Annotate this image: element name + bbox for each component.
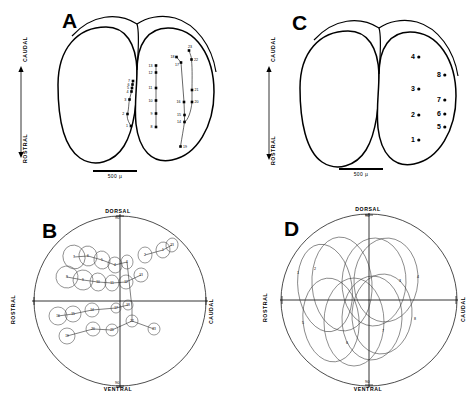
panel-d-receptive-field-5 bbox=[299, 275, 363, 364]
panel-c-site-5 bbox=[443, 125, 446, 128]
panel-a-site-1 bbox=[130, 125, 133, 128]
panel-c-site-8 bbox=[443, 73, 446, 76]
panel-c-site-label-5: 5 bbox=[437, 123, 441, 130]
panel-b-visual-field: 765432123891011121316151417181920212223 bbox=[20, 212, 220, 390]
panel-d-receptive-field-label-7: 7 bbox=[382, 329, 384, 333]
panel-b-receptive-field-label-20: 20 bbox=[91, 327, 95, 331]
panel-d-axis-rostral-label: ROSTRAL bbox=[262, 293, 268, 322]
panel-b-receptive-field-label-6: 6 bbox=[87, 254, 89, 258]
panel-b-receptive-field-label-13: 13 bbox=[139, 273, 143, 277]
panel-a-site-label-1: 1 bbox=[126, 124, 128, 128]
panel-d-visual-field: 12345678 bbox=[270, 210, 468, 390]
panel-b-receptive-field-label-8: 8 bbox=[66, 275, 68, 279]
panel-d: D DORSAL 90 VENTRAL 90 ROSTRAL CAUDAL 12… bbox=[238, 200, 476, 400]
panel-a-site-18 bbox=[175, 56, 178, 59]
panel-c-scalebar: 500 µ bbox=[339, 168, 383, 177]
panel-b-receptive-field-label-11: 11 bbox=[110, 281, 114, 285]
panel-c-site-label-1: 1 bbox=[411, 136, 415, 143]
panel-b-receptive-field-label-7: 7 bbox=[73, 255, 75, 259]
panel-b-receptive-field-label-5: 5 bbox=[101, 258, 103, 262]
panel-b-field-group: 765432123891011121316151417181920212223 bbox=[49, 237, 179, 344]
panel-d-receptive-field-8 bbox=[349, 272, 414, 356]
panel-a-site-label-15: 15 bbox=[177, 113, 181, 117]
panel-a-site-23 bbox=[188, 49, 191, 52]
panel-d-receptive-field-label-6: 6 bbox=[346, 341, 348, 345]
panel-a-site-label-9: 9 bbox=[150, 112, 152, 116]
panel-a-site-7 bbox=[132, 80, 135, 83]
panel-d-receptive-field-label-1: 1 bbox=[297, 271, 299, 275]
panel-d-receptive-field-6 bbox=[324, 278, 384, 366]
panel-b-receptive-field-label-12: 12 bbox=[124, 280, 128, 284]
panel-b-receptive-field-label-19: 19 bbox=[65, 334, 69, 338]
panel-b-receptive-field-label-23: 23 bbox=[170, 243, 174, 247]
panel-a-site-label-3: 3 bbox=[124, 98, 126, 102]
panel-a-site-17 bbox=[180, 61, 183, 64]
panel-a-site-19 bbox=[179, 145, 182, 148]
panel-a-site-label-22: 22 bbox=[194, 58, 198, 62]
panel-a-site-4 bbox=[130, 90, 133, 93]
panel-b-receptive-field-label-15: 15 bbox=[71, 312, 75, 316]
panel-a-site-14 bbox=[183, 121, 186, 124]
panel-a-site-label-7: 7 bbox=[128, 79, 130, 83]
panel-a-scalebar-label: 500 µ bbox=[93, 173, 137, 179]
panel-c-scalebar-line bbox=[339, 168, 383, 170]
panel-a-site-label-10: 10 bbox=[149, 99, 153, 103]
panel-d-receptive-field-3 bbox=[340, 237, 407, 327]
panel-c-site-2 bbox=[417, 113, 420, 116]
panel-a-site-11 bbox=[155, 87, 158, 90]
panel-a-site-label-6: 6 bbox=[128, 83, 130, 87]
panel-a-site-label-13: 13 bbox=[149, 64, 153, 68]
panel-a-site-label-5: 5 bbox=[127, 86, 129, 90]
panel-c-site-label-6: 6 bbox=[437, 110, 441, 117]
panel-b-receptive-field-label-23b: 23 bbox=[152, 327, 156, 331]
panel-c-site-7 bbox=[443, 98, 446, 101]
panel-b-receptive-field-label-16: 16 bbox=[56, 314, 60, 318]
panel-b-receptive-field-label-21: 21 bbox=[110, 328, 114, 332]
panel-a-site-label-4: 4 bbox=[127, 90, 129, 94]
panel-d-receptive-field-label-4: 4 bbox=[417, 275, 419, 279]
panel-a-site-label-23: 23 bbox=[188, 45, 192, 49]
panel-b-receptive-field-label-14: 14 bbox=[90, 308, 94, 312]
panel-a-site-20 bbox=[191, 101, 194, 104]
panel-a-site-label-14: 14 bbox=[177, 120, 181, 124]
panel-a-site-8 bbox=[155, 126, 158, 129]
panel-b-connector-2 bbox=[145, 245, 172, 255]
panel-b-receptive-field-label-4: 4 bbox=[114, 263, 116, 267]
panel-a-site-label-2: 2 bbox=[122, 112, 124, 116]
panel-a-scalebar-line bbox=[93, 170, 137, 172]
panel-b-axis-rostral-label: ROSTRAL bbox=[10, 295, 16, 324]
panel-d-receptive-field-label-3: 3 bbox=[399, 279, 401, 283]
panel-c-site-4 bbox=[417, 55, 420, 58]
panel-a-site-3 bbox=[128, 98, 131, 101]
panel-a-site-16 bbox=[183, 101, 186, 104]
panel-a-site-9 bbox=[155, 112, 158, 115]
panel-c-site-1 bbox=[417, 138, 420, 141]
panel-b-receptive-field-label-3: 3 bbox=[126, 260, 128, 264]
panel-a-site-label-19: 19 bbox=[183, 145, 187, 149]
panel-c-site-label-3: 3 bbox=[411, 85, 415, 92]
panel-a-site-12 bbox=[155, 71, 158, 74]
panel-c-site-label-7: 7 bbox=[437, 96, 441, 103]
panel-a-site-label-20: 20 bbox=[195, 100, 199, 104]
panel-a-site-label-11: 11 bbox=[149, 86, 153, 90]
panel-a-site-15 bbox=[183, 114, 186, 117]
panel-d-receptive-field-label-2: 2 bbox=[314, 267, 316, 271]
panel-b-receptive-field-label-22: 22 bbox=[130, 319, 134, 323]
panel-b-receptive-field-label-2: 2 bbox=[144, 253, 146, 257]
panel-b: B DORSAL 90 VENTRAL 90 ROSTRAL CAUDAL 76… bbox=[0, 200, 238, 400]
panel-a: A CAUDAL ROSTRAL 123456789101 bbox=[0, 0, 238, 200]
panel-d-receptive-field-label-5: 5 bbox=[302, 321, 304, 325]
panel-c-scalebar-label: 500 µ bbox=[339, 171, 383, 177]
panel-c-site-label-8: 8 bbox=[437, 71, 441, 78]
panel-a-site-13 bbox=[155, 64, 158, 67]
panel-d-receptive-field-label-8: 8 bbox=[414, 317, 416, 321]
panel-c-site-3 bbox=[417, 87, 420, 90]
panel-a-site-label-16: 16 bbox=[176, 100, 180, 104]
panel-c: C CAUDAL ROSTRAL 48372651 500 µ bbox=[238, 0, 476, 200]
panel-d-field-group: 12345678 bbox=[292, 235, 421, 366]
panel-a-site-label-21: 21 bbox=[195, 88, 199, 92]
panel-b-receptive-field-label-17: 17 bbox=[114, 306, 118, 310]
panel-a-site-label-8: 8 bbox=[150, 125, 152, 129]
panel-a-site-label-18: 18 bbox=[171, 55, 175, 59]
panel-c-site-6 bbox=[443, 112, 446, 115]
